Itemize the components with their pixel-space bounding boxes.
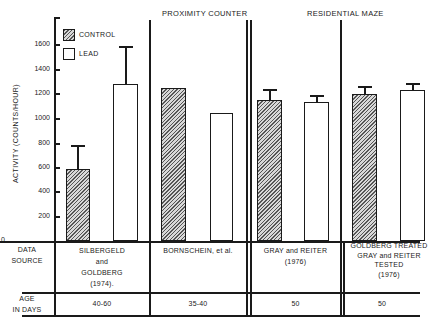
tick-label-200: 200 bbox=[20, 212, 50, 219]
divider-silbergeld-bornschein bbox=[149, 20, 151, 315]
tick-label-1000: 1000 bbox=[20, 114, 50, 121]
row-header-source: SOURCE bbox=[0, 255, 54, 266]
tick-400 bbox=[54, 191, 60, 193]
source-line: SILBERGELD bbox=[55, 245, 149, 256]
row-header-age-line1: AGE bbox=[0, 293, 54, 304]
source-bornschein: BORNSCHEIN, et al. bbox=[150, 245, 246, 256]
tick-1200 bbox=[54, 93, 60, 95]
tick-label-1400: 1400 bbox=[20, 65, 50, 72]
errorcap-goldberg-control bbox=[358, 86, 372, 88]
errorcap-gray-reiter-control bbox=[263, 89, 277, 91]
errorcap-goldberg-lead bbox=[406, 83, 420, 85]
row-header-age-line2: IN DAYS bbox=[0, 304, 54, 315]
source-line: (1976) bbox=[251, 256, 340, 267]
bar-gray-reiter-control bbox=[257, 100, 282, 241]
row-header-data-source: DATA SOURCE bbox=[0, 244, 54, 266]
age-goldberg-treated: 50 bbox=[344, 298, 420, 309]
age-gray-reiter: 50 bbox=[251, 298, 340, 309]
errorcap-silbergeld-control bbox=[71, 145, 85, 147]
errorbar-gray-reiter-control bbox=[269, 89, 271, 100]
bar-silbergeld-control bbox=[66, 169, 90, 241]
source-line: GOLDBERG TREATED bbox=[344, 241, 434, 251]
source-gray-reiter: GRAY and REITER (1976) bbox=[251, 245, 340, 267]
age-bornschein: 35-40 bbox=[150, 298, 246, 309]
bar-goldberg-lead bbox=[400, 90, 425, 241]
tick-800 bbox=[54, 143, 60, 145]
divider-counter-maze-a bbox=[246, 20, 248, 315]
table-bottom-border bbox=[22, 315, 420, 317]
legend-label-control: CONTROL bbox=[79, 31, 115, 38]
tick-1600 bbox=[54, 44, 60, 46]
legend-swatch-lead bbox=[63, 48, 75, 60]
tick-600 bbox=[54, 167, 60, 169]
source-line: and bbox=[55, 256, 149, 267]
tick-label-1200: 1200 bbox=[20, 89, 50, 96]
row-header-data: DATA bbox=[0, 244, 54, 255]
age-silbergeld: 40-60 bbox=[55, 298, 149, 309]
bar-gray-reiter-lead bbox=[304, 102, 329, 241]
legend-label-lead: LEAD bbox=[79, 50, 99, 57]
section-label-residential-maze: RESIDENTIAL MAZE bbox=[307, 9, 384, 18]
source-line: GRAY and REITER bbox=[251, 245, 340, 256]
row-header-age: AGE IN DAYS bbox=[0, 293, 54, 315]
bar-goldberg-control bbox=[352, 94, 377, 241]
errorcap-gray-reiter-lead bbox=[310, 95, 324, 97]
source-line: TESTED bbox=[344, 260, 434, 270]
y-axis-top-tick bbox=[54, 17, 60, 19]
divider-gray-goldberg bbox=[340, 20, 342, 315]
tick-label-800: 800 bbox=[20, 139, 50, 146]
tick-label-400: 400 bbox=[20, 187, 50, 194]
errorbar-silbergeld-control bbox=[77, 145, 79, 169]
bar-bornschein-lead bbox=[210, 113, 233, 241]
errorbar-silbergeld-lead bbox=[125, 46, 127, 84]
bar-bornschein-control bbox=[161, 88, 186, 241]
source-goldberg-treated: GOLDBERG TREATED GRAY and REITER TESTED … bbox=[344, 241, 434, 279]
source-line: (1976) bbox=[344, 270, 434, 280]
tick-label-600: 600 bbox=[20, 163, 50, 170]
source-silbergeld: SILBERGELD and GOLDBERG (1974). bbox=[55, 245, 149, 289]
tick-1000 bbox=[54, 118, 60, 120]
source-line: GRAY and REITER bbox=[344, 251, 434, 261]
source-line: GOLDBERG bbox=[55, 267, 149, 278]
section-label-proximity-counter: PROXIMITY COUNTER bbox=[162, 9, 247, 18]
tick-1400 bbox=[54, 69, 60, 71]
legend-swatch-control bbox=[63, 29, 75, 41]
divider-counter-maze-b bbox=[250, 20, 252, 315]
tick-label-1600: 1600 bbox=[20, 40, 50, 47]
source-line: BORNSCHEIN, et al. bbox=[150, 245, 246, 256]
bar-silbergeld-lead bbox=[113, 84, 138, 241]
source-line: (1974). bbox=[55, 278, 149, 289]
errorcap-silbergeld-lead bbox=[119, 46, 133, 48]
y-axis-label: ACTIVITY (COUNTS/HOUR) bbox=[12, 79, 19, 189]
tick-200 bbox=[54, 216, 60, 218]
table-row-separator bbox=[22, 292, 420, 294]
